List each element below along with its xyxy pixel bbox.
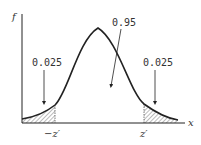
normal-curve-figure: f x 0.95 0.025 0.025 −z′ z′ [0, 0, 201, 145]
center-area-label: 0.95 [112, 17, 136, 28]
y-axis-label: f [11, 11, 18, 22]
left-tail-label: 0.025 [32, 57, 62, 68]
right-critical-label: z′ [139, 128, 148, 139]
left-critical-label: −z′ [44, 128, 61, 139]
x-axis-label: x [188, 117, 194, 128]
right-tail-label: 0.025 [143, 57, 173, 68]
